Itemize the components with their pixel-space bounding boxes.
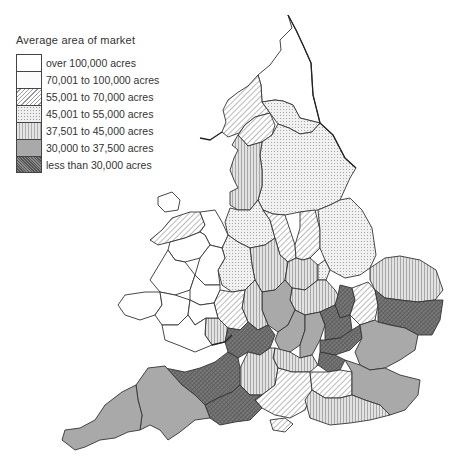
region-cambridgeshire [350, 282, 378, 325]
region-anglesey [158, 192, 180, 212]
region-cornwall [62, 385, 142, 450]
coastline-solway [200, 132, 222, 140]
region-nottinghamshire [295, 210, 320, 260]
region-isle-of-wight [270, 418, 293, 432]
region-lancashire [230, 135, 262, 210]
region-middlesex [318, 352, 345, 372]
england-wales-map [0, 0, 464, 462]
